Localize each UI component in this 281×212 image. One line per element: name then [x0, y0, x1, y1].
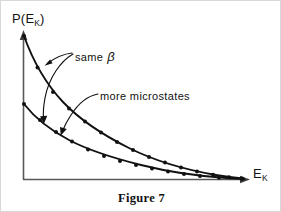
- data-point: [83, 120, 87, 124]
- data-point: [51, 90, 55, 94]
- lower-curve-group: [22, 102, 244, 181]
- annotation-more-microstates: more microstates: [100, 90, 190, 102]
- data-point: [166, 170, 170, 174]
- lower-curve-markers: [22, 102, 244, 181]
- data-point: [240, 177, 244, 181]
- data-point: [99, 131, 103, 135]
- x-axis-label-subscript: K: [262, 173, 268, 183]
- data-point: [22, 102, 26, 106]
- data-point: [102, 154, 106, 158]
- y-axis-label: P(EK): [12, 11, 44, 26]
- data-point: [131, 148, 135, 152]
- data-point: [217, 176, 221, 180]
- x-axis-label-main: E: [253, 166, 262, 181]
- leader-more-microstates: [60, 94, 98, 136]
- x-axis-label: EK: [253, 166, 268, 181]
- leader-line: [63, 94, 99, 131]
- data-point: [198, 174, 202, 178]
- data-point: [182, 172, 186, 176]
- y-axis-label-close: ): [40, 11, 45, 26]
- data-point: [147, 155, 151, 159]
- annotation-same-beta: sameβ: [75, 49, 115, 64]
- figure-container: P(EK) EK sameβ more microstates Figure 7: [0, 0, 281, 212]
- data-point: [195, 170, 199, 174]
- y-axis-label-subscript: K: [34, 18, 40, 28]
- y-axis-label-main: P(E: [12, 11, 34, 26]
- data-point: [134, 163, 138, 167]
- figure-caption: Figure 7: [1, 191, 281, 206]
- data-point: [70, 140, 74, 144]
- data-point: [118, 159, 122, 163]
- leader-arrowhead: [60, 127, 67, 136]
- leader-same-beta-upper: [45, 53, 73, 66]
- data-point: [179, 166, 183, 170]
- data-point: [150, 167, 154, 171]
- leader-same-beta-lower: [40, 54, 73, 124]
- data-point: [67, 107, 71, 111]
- beta-symbol: β: [103, 49, 115, 64]
- data-point: [22, 34, 26, 38]
- data-point: [36, 66, 40, 70]
- upper-curve-group: [22, 34, 244, 181]
- plot-canvas: [1, 1, 281, 212]
- data-point: [86, 148, 90, 152]
- data-point: [54, 130, 58, 134]
- data-point: [115, 140, 119, 144]
- data-point: [163, 161, 167, 165]
- annotation-same-beta-text: same: [75, 51, 103, 63]
- lower-curve: [24, 104, 244, 179]
- upper-curve-markers: [22, 34, 244, 181]
- leader-line: [48, 53, 72, 63]
